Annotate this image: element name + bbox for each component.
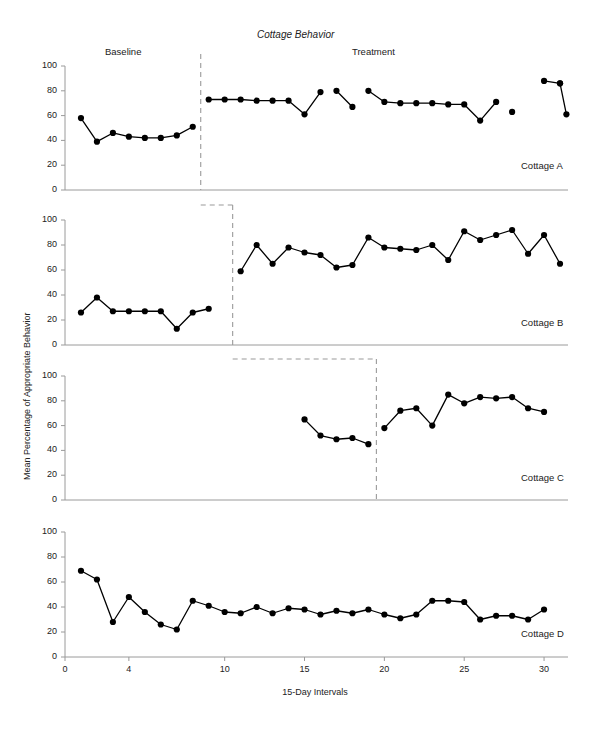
data-point bbox=[397, 100, 403, 106]
data-point bbox=[110, 619, 116, 625]
data-point bbox=[238, 96, 244, 102]
data-point bbox=[190, 124, 196, 130]
data-point bbox=[333, 88, 339, 94]
data-point bbox=[365, 441, 371, 447]
data-point bbox=[461, 101, 467, 107]
data-point bbox=[429, 100, 435, 106]
data-point bbox=[493, 395, 499, 401]
x-tick-label: 4 bbox=[114, 664, 144, 674]
data-point bbox=[413, 405, 419, 411]
data-point bbox=[557, 261, 563, 267]
data-point bbox=[126, 594, 132, 600]
data-point bbox=[333, 436, 339, 442]
data-point bbox=[397, 246, 403, 252]
data-point bbox=[349, 435, 355, 441]
data-point bbox=[381, 425, 387, 431]
data-line bbox=[81, 571, 544, 630]
data-point bbox=[254, 98, 260, 104]
y-tick-label: 60 bbox=[25, 420, 57, 430]
data-point bbox=[206, 306, 212, 312]
data-point bbox=[493, 613, 499, 619]
data-point bbox=[525, 405, 531, 411]
panel-cottage-a bbox=[61, 66, 570, 190]
y-tick-label: 100 bbox=[25, 214, 57, 224]
y-tick-label: 20 bbox=[25, 469, 57, 479]
data-point bbox=[461, 400, 467, 406]
data-point bbox=[461, 228, 467, 234]
data-point bbox=[301, 249, 307, 255]
data-point bbox=[381, 611, 387, 617]
data-point bbox=[206, 603, 212, 609]
data-point bbox=[349, 262, 355, 268]
y-tick-label: 80 bbox=[25, 239, 57, 249]
data-point bbox=[397, 408, 403, 414]
data-point bbox=[365, 606, 371, 612]
data-point bbox=[541, 232, 547, 238]
data-point bbox=[445, 101, 451, 107]
data-point bbox=[110, 130, 116, 136]
y-tick-label: 20 bbox=[25, 159, 57, 169]
data-point bbox=[317, 611, 323, 617]
y-tick-label: 20 bbox=[25, 314, 57, 324]
y-tick-label: 80 bbox=[25, 551, 57, 561]
data-point bbox=[254, 604, 260, 610]
data-point bbox=[397, 615, 403, 621]
data-point bbox=[557, 80, 563, 86]
y-tick-label: 0 bbox=[25, 184, 57, 194]
data-point bbox=[222, 96, 228, 102]
data-point bbox=[413, 100, 419, 106]
data-point bbox=[541, 78, 547, 84]
data-point bbox=[238, 610, 244, 616]
data-point bbox=[525, 616, 531, 622]
data-point bbox=[365, 234, 371, 240]
data-point bbox=[254, 242, 260, 248]
data-point bbox=[269, 610, 275, 616]
data-point bbox=[190, 309, 196, 315]
y-tick-label: 100 bbox=[25, 370, 57, 380]
data-point bbox=[285, 605, 291, 611]
data-point bbox=[493, 99, 499, 105]
data-point bbox=[190, 598, 196, 604]
data-line bbox=[560, 83, 566, 114]
data-point bbox=[142, 135, 148, 141]
y-tick-label: 40 bbox=[25, 601, 57, 611]
data-point bbox=[429, 598, 435, 604]
data-point bbox=[333, 264, 339, 270]
data-point bbox=[429, 242, 435, 248]
chart-figure: Cottage Behavior Baseline Treatment Mean… bbox=[0, 0, 596, 732]
data-point bbox=[78, 115, 84, 121]
y-tick-label: 80 bbox=[25, 395, 57, 405]
y-tick-label: 40 bbox=[25, 444, 57, 454]
y-tick-label: 0 bbox=[25, 494, 57, 504]
data-point bbox=[563, 111, 569, 117]
data-point bbox=[317, 252, 323, 258]
data-point bbox=[222, 609, 228, 615]
panel-cottage-b bbox=[61, 220, 568, 345]
data-line bbox=[336, 91, 352, 107]
y-tick-label: 20 bbox=[25, 626, 57, 636]
y-tick-label: 80 bbox=[25, 85, 57, 95]
data-point bbox=[477, 394, 483, 400]
data-point bbox=[301, 416, 307, 422]
data-point bbox=[413, 611, 419, 617]
panel-cottage-d bbox=[61, 532, 568, 661]
data-point bbox=[477, 117, 483, 123]
x-tick-label: 25 bbox=[449, 664, 479, 674]
plot-canvas bbox=[0, 0, 596, 732]
data-point bbox=[333, 608, 339, 614]
data-point bbox=[269, 98, 275, 104]
data-point bbox=[509, 109, 515, 115]
x-tick-label: 15 bbox=[290, 664, 320, 674]
y-tick-label: 40 bbox=[25, 289, 57, 299]
y-tick-label: 100 bbox=[25, 60, 57, 70]
data-point bbox=[94, 576, 100, 582]
y-tick-label: 0 bbox=[25, 339, 57, 349]
y-tick-label: 60 bbox=[25, 264, 57, 274]
y-tick-label: 60 bbox=[25, 110, 57, 120]
data-point bbox=[381, 244, 387, 250]
y-tick-label: 100 bbox=[25, 526, 57, 536]
data-point bbox=[365, 88, 371, 94]
data-point bbox=[158, 621, 164, 627]
data-point bbox=[381, 99, 387, 105]
data-point bbox=[477, 616, 483, 622]
